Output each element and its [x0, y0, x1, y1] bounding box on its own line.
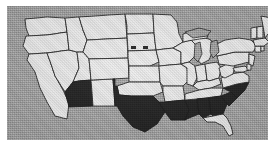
state-RI[interactable] [261, 46, 264, 51]
state-MA[interactable] [253, 38, 268, 46]
state-AL[interactable] [197, 98, 211, 118]
state-NJ[interactable] [249, 54, 255, 66]
state-MO[interactable] [159, 64, 189, 86]
state-ND[interactable] [125, 14, 154, 34]
map-panel [7, 6, 268, 140]
state-IA[interactable] [156, 48, 181, 66]
state-AR[interactable] [163, 86, 185, 102]
figure-title: Map of the contiguous United States [0, 0, 1, 1]
figure-container: Map of the contiguous United States Blac… [0, 0, 279, 150]
state-CT[interactable] [255, 46, 261, 52]
figure-description: Black-and-white scanned thematic map of … [0, 0, 1, 1]
state-NM[interactable] [91, 79, 115, 106]
dot-mark-1 [131, 46, 136, 49]
us-map [7, 6, 268, 140]
state-NE[interactable] [128, 50, 159, 66]
state-OK[interactable] [117, 82, 163, 96]
state-LA[interactable] [159, 100, 189, 120]
dot-mark-2 [143, 46, 148, 49]
state-WY[interactable] [83, 38, 128, 59]
state-MT[interactable] [79, 14, 127, 40]
figure-caption [0, 0, 1, 1]
state-FL[interactable] [203, 114, 233, 136]
state-KS[interactable] [129, 66, 160, 82]
state-CO[interactable] [89, 58, 129, 80]
state-NH[interactable] [257, 26, 263, 38]
state-VT[interactable] [251, 27, 257, 39]
